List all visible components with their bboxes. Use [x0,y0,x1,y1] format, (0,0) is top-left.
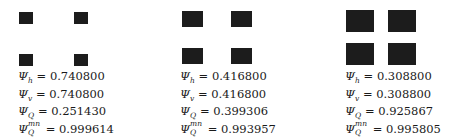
value: = 0.740800 [32,87,104,101]
black-square [388,10,416,32]
psi-h-equation: Ψh = 0.740800 [18,70,114,88]
value: = 0.308800 [359,87,431,101]
psi-v-equation: Ψv = 0.740800 [18,88,114,106]
black-square [346,43,374,65]
black-square [74,12,88,24]
black-square [231,48,252,64]
black-square [182,48,203,64]
black-square [346,10,374,32]
psi-q-mn-equation: ΨmnQ = 0.995805 [345,123,441,136]
psi-v-equation: Ψv = 0.308800 [345,88,441,106]
value: = 0.416800 [195,69,267,83]
psi-h-equation: Ψh = 0.416800 [180,70,276,88]
black-square [231,11,252,27]
value: = 0.251430 [34,104,106,118]
value: = 0.740800 [33,69,105,83]
black-square [19,54,33,66]
metrics-block: Ψh = 0.740800Ψv = 0.740800ΨQ = 0.251430Ψ… [18,70,114,136]
value: = 0.399306 [196,104,268,118]
value: = 0.925867 [361,104,433,118]
psi-q-mn-equation: ΨmnQ = 0.993957 [180,123,276,136]
value: = 0.999614 [42,122,114,136]
black-square [388,43,416,65]
value: = 0.308800 [360,69,432,83]
black-square [182,11,203,27]
black-square [19,12,33,24]
psi-v-equation: Ψv = 0.416800 [180,88,276,106]
psi-q-mn-equation: ΨmnQ = 0.999614 [18,123,114,136]
value: = 0.993957 [204,122,276,136]
psi-h-equation: Ψh = 0.308800 [345,70,441,88]
metrics-block: Ψh = 0.416800Ψv = 0.416800ΨQ = 0.399306Ψ… [180,70,276,136]
value: = 0.995805 [369,122,441,136]
value: = 0.416800 [194,87,266,101]
metrics-block: Ψh = 0.308800Ψv = 0.308800ΨQ = 0.925867Ψ… [345,70,441,136]
black-square [74,54,88,66]
